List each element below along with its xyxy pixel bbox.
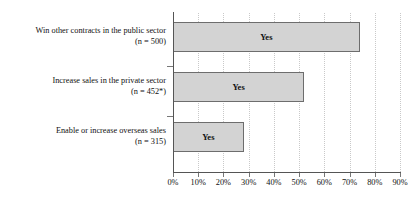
x-axis-tick-60 bbox=[324, 173, 325, 177]
x-axis-tick-80 bbox=[375, 173, 376, 177]
x-axis-label-90: 90% bbox=[383, 178, 411, 187]
category-label-0-text: Win other contracts in the public sector bbox=[35, 26, 166, 35]
x-axis-tick-30 bbox=[249, 173, 250, 177]
category-label-0: Win other contracts in the public sector… bbox=[0, 26, 166, 47]
y-axis-tick-0 bbox=[167, 66, 173, 67]
plot-area: Yes Yes Yes bbox=[173, 13, 400, 172]
gridline-80 bbox=[375, 13, 376, 172]
category-label-0-sublabel: (n = 500) bbox=[0, 37, 166, 48]
x-axis-line bbox=[173, 172, 401, 173]
category-label-1: Increase sales in the private sector (n … bbox=[0, 76, 166, 97]
x-axis-tick-70 bbox=[350, 173, 351, 177]
category-label-1-sublabel: (n = 452*) bbox=[0, 87, 166, 98]
bar-chart: Win other contracts in the public sector… bbox=[0, 0, 411, 198]
category-label-2-text: Enable or increase overseas sales bbox=[56, 126, 166, 135]
x-axis-tick-0 bbox=[173, 173, 174, 177]
bar-2: Yes bbox=[173, 122, 244, 152]
x-axis-tick-50 bbox=[299, 173, 300, 177]
category-label-1-text: Increase sales in the private sector bbox=[52, 76, 166, 85]
bar-1: Yes bbox=[173, 72, 304, 102]
x-axis-tick-10 bbox=[198, 173, 199, 177]
bar-1-label: Yes bbox=[174, 82, 303, 92]
category-label-2-sublabel: (n = 315) bbox=[0, 137, 166, 148]
x-axis-tick-90 bbox=[400, 173, 401, 177]
y-axis-line bbox=[173, 12, 174, 173]
x-axis-tick-20 bbox=[223, 173, 224, 177]
bar-2-label: Yes bbox=[174, 132, 243, 142]
bar-0: Yes bbox=[173, 22, 360, 52]
category-label-2: Enable or increase overseas sales (n = 3… bbox=[0, 126, 166, 147]
x-axis-tick-40 bbox=[274, 173, 275, 177]
gridline-90 bbox=[400, 13, 401, 172]
bar-0-label: Yes bbox=[174, 32, 359, 42]
y-axis-tick-1 bbox=[167, 116, 173, 117]
